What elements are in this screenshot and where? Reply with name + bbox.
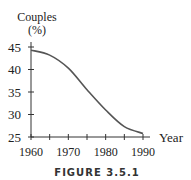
y-tick-label: 25 [8, 130, 21, 145]
y-tick-label: 45 [8, 40, 21, 55]
data-line [31, 50, 143, 133]
y-axis-unit-label: (%) [28, 23, 46, 37]
x-ticks: 1960197019801990 [19, 134, 155, 159]
figure-caption: FIGURE 3.5.1 [54, 167, 139, 178]
y-axis-label: Couples [17, 10, 57, 24]
chart: Couples (%) 2530354045 1960197019801990 … [0, 0, 191, 180]
y-tick-label: 35 [8, 85, 21, 100]
axes [31, 42, 150, 137]
x-axis-label: Year [159, 130, 184, 145]
x-tick-label: 1970 [56, 145, 80, 159]
y-tick-label: 40 [8, 62, 21, 77]
x-tick-label: 1980 [94, 145, 118, 159]
y-tick-label: 30 [8, 107, 21, 122]
x-tick-label: 1960 [19, 145, 43, 159]
x-tick-label: 1990 [131, 145, 155, 159]
y-ticks: 2530354045 [8, 40, 34, 145]
